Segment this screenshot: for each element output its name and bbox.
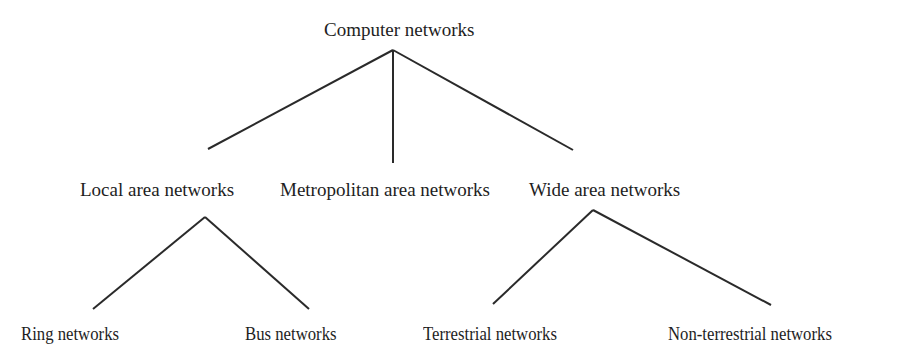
edge-root-to-wan xyxy=(393,50,573,150)
edge-root-to-lan xyxy=(208,50,393,149)
edge-lan-to-ring xyxy=(93,217,205,309)
edge-wan-to-non-terrestrial xyxy=(593,210,771,305)
node-local-area-networks: Local area networks xyxy=(80,180,234,199)
edge-wan-to-terrestrial xyxy=(493,210,593,304)
node-ring-networks: Ring networks xyxy=(21,324,119,343)
node-metropolitan-area-networks: Metropolitan area networks xyxy=(280,180,490,199)
node-wide-area-networks: Wide area networks xyxy=(529,180,680,199)
node-terrestrial-networks: Terrestrial networks xyxy=(423,324,557,343)
edge-lan-to-bus xyxy=(205,217,309,309)
node-computer-networks: Computer networks xyxy=(324,20,474,39)
node-non-terrestrial-networks: Non-terrestrial networks xyxy=(668,324,832,343)
node-bus-networks: Bus networks xyxy=(245,324,337,343)
